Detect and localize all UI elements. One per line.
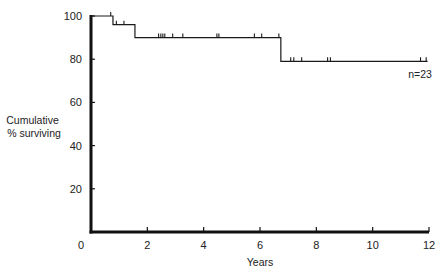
x-tick-label: 6 <box>257 239 263 251</box>
survival-chart: 20406080100 024681012 Cumulative % survi… <box>0 0 447 279</box>
y-axis-title-line-2: % surviving <box>7 127 61 139</box>
y-tick-label: 60 <box>70 96 82 108</box>
y-tick-label: 20 <box>70 183 82 195</box>
sample-size-annotation: n=23 <box>408 68 432 80</box>
y-tick-label: 100 <box>64 10 82 22</box>
survival-curve <box>91 16 428 61</box>
x-tick-label: 10 <box>367 239 379 251</box>
x-tick-label: 4 <box>201 239 207 251</box>
y-tick-label: 80 <box>70 53 82 65</box>
x-tick-label: 12 <box>423 239 435 251</box>
y-axis-title: Cumulative % surviving <box>6 114 61 139</box>
x-axis-title: Years <box>247 256 273 268</box>
y-tick-label: 40 <box>70 140 82 152</box>
y-axis-title-line-1: Cumulative <box>6 114 59 126</box>
x-tick-label: 8 <box>313 239 319 251</box>
x-tick-label: 2 <box>144 239 150 251</box>
censor-marks <box>111 12 426 61</box>
x-tick-label: 0 <box>78 239 84 251</box>
